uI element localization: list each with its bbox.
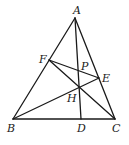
label-D: D [76,122,86,135]
label-A: A [72,4,81,17]
label-H: H [66,92,77,105]
label-F: F [38,53,47,66]
label-P: P [80,60,89,73]
label-B: B [6,122,15,135]
triangle-diagram: A F P E H B D C [0,0,129,145]
label-C: C [112,122,121,135]
segment-FE [49,60,99,78]
label-E: E [101,72,110,85]
